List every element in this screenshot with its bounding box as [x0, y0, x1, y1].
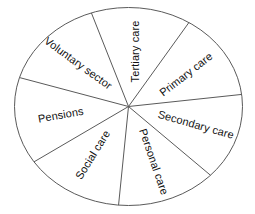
sector-wheel-diagram: Tertiary carePrimary careSecondary careP…: [0, 0, 255, 214]
diagram-canvas: Tertiary carePrimary careSecondary careP…: [0, 0, 255, 214]
sector-label-tertiary-care: Tertiary care: [129, 21, 141, 83]
